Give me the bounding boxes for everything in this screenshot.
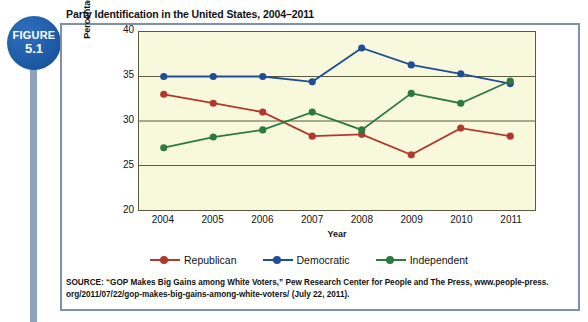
x-tick-label: 2004 xyxy=(143,214,183,225)
data-point-democratic-2009 xyxy=(408,61,415,68)
y-tick-label: 30 xyxy=(112,114,134,125)
plot-area xyxy=(138,31,536,211)
legend-swatch-icon xyxy=(376,255,406,265)
data-point-independent-2006 xyxy=(259,126,266,133)
y-tick-label: 20 xyxy=(112,204,134,215)
figure-title: Party Identification in the United State… xyxy=(66,8,314,20)
y-tick-label: 25 xyxy=(112,159,134,170)
data-point-republican-2006 xyxy=(259,109,266,116)
x-tick-label: 2005 xyxy=(193,214,233,225)
y-axis-title: Percentage of Voting Age Population xyxy=(82,0,92,45)
y-axis-ticks: 2025303540 xyxy=(98,31,134,211)
figure-badge: FIGURE 5.1 xyxy=(7,16,61,70)
x-axis-title: Year xyxy=(138,229,536,239)
x-tick-label: 2007 xyxy=(292,214,332,225)
source-line-2: org/2011/07/22/gop-makes-big-gains-among… xyxy=(66,289,566,301)
source-line-1: SOURCE: “GOP Makes Big Gains among White… xyxy=(66,277,566,289)
legend-swatch-icon xyxy=(150,255,180,265)
data-point-democratic-2010 xyxy=(457,70,464,77)
legend-label: Democratic xyxy=(297,254,350,266)
data-point-democratic-2005 xyxy=(210,73,217,80)
x-tick-label: 2006 xyxy=(242,214,282,225)
source-note: SOURCE: “GOP Makes Big Gains among White… xyxy=(66,277,566,302)
x-tick-label: 2010 xyxy=(441,214,481,225)
data-point-independent-2011 xyxy=(507,77,514,84)
y-tick-label: 40 xyxy=(112,24,134,35)
data-point-independent-2009 xyxy=(408,90,415,97)
data-point-republican-2004 xyxy=(160,91,167,98)
data-point-democratic-2007 xyxy=(309,78,316,85)
data-point-republican-2009 xyxy=(408,151,415,158)
legend-swatch-icon xyxy=(263,255,293,265)
plot-svg xyxy=(139,32,535,210)
legend-item-democratic: Democratic xyxy=(263,254,350,266)
data-point-republican-2005 xyxy=(210,100,217,107)
x-tick-label: 2011 xyxy=(491,214,531,225)
data-point-democratic-2004 xyxy=(160,73,167,80)
data-point-republican-2007 xyxy=(309,133,316,140)
data-point-independent-2005 xyxy=(210,133,217,140)
data-point-democratic-2008 xyxy=(358,44,365,51)
x-tick-label: 2008 xyxy=(342,214,382,225)
data-point-independent-2004 xyxy=(160,144,167,151)
figure-badge-stem xyxy=(30,60,37,322)
figure-badge-number: 5.1 xyxy=(25,42,43,56)
y-tick-label: 35 xyxy=(112,69,134,80)
data-point-independent-2008 xyxy=(358,126,365,133)
data-point-democratic-2006 xyxy=(259,73,266,80)
chart-legend: RepublicanDemocraticIndependent xyxy=(78,254,540,266)
legend-label: Independent xyxy=(410,254,468,266)
data-point-independent-2010 xyxy=(457,100,464,107)
x-tick-label: 2009 xyxy=(392,214,432,225)
data-point-independent-2007 xyxy=(309,109,316,116)
legend-item-independent: Independent xyxy=(376,254,468,266)
line-chart: Percentage of Voting Age Population 2025… xyxy=(78,31,540,241)
data-point-republican-2011 xyxy=(507,133,514,140)
legend-item-republican: Republican xyxy=(150,254,237,266)
data-point-republican-2010 xyxy=(457,125,464,132)
legend-label: Republican xyxy=(184,254,237,266)
